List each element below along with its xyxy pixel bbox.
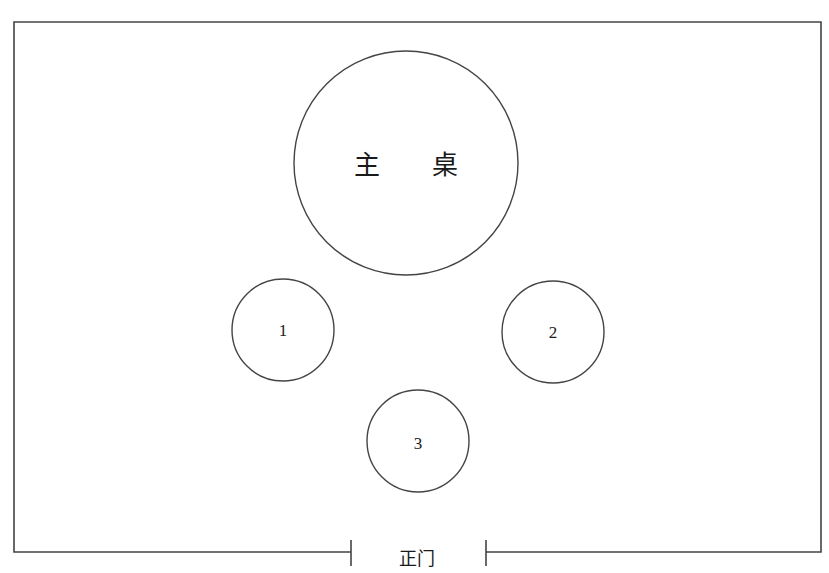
room-wall — [14, 22, 821, 552]
table-1-label: 1 — [279, 321, 288, 341]
table-3-label: 3 — [414, 434, 423, 454]
main-table-label: 主 桌 — [332, 144, 480, 181]
seating-diagram — [0, 0, 829, 573]
main-door-label: 正门 — [399, 544, 435, 570]
table-2-label: 2 — [549, 323, 558, 343]
